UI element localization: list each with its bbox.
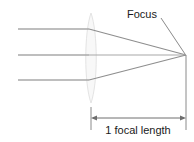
refracted-ray-lower [89, 55, 186, 80]
focus-label: Focus [127, 8, 157, 20]
dimension-arrowhead-right [180, 116, 186, 121]
converging-lens [86, 13, 97, 103]
lens-shape [86, 13, 97, 103]
focal-length-dimension [91, 116, 186, 121]
refracted-rays [89, 29, 186, 80]
incoming-rays [18, 29, 89, 80]
lens-focus-diagram: Focus 1 focal length [0, 0, 194, 142]
optics-diagram-canvas: Focus 1 focal length [0, 0, 194, 142]
dimension-arrowhead-left [91, 116, 97, 121]
focal-length-label: 1 focal length [105, 124, 170, 136]
focus-leader-line [161, 18, 185, 54]
